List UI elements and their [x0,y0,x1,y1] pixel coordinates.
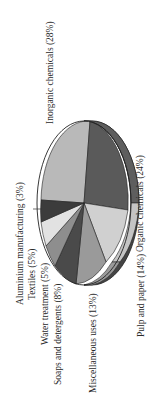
label-miscellaneous-uses: Miscellaneous uses (13%) [88,293,99,393]
label-aluminium-manufacturing: Aluminium manufacturing (3%) [15,182,26,305]
label-soaps-and-detergents: Soaps and detergents (8%) [53,284,64,385]
label-pulp-and-paper: Pulp and paper (14%) [136,254,147,337]
label-water-treatment: Water treatment (5%) [40,263,51,345]
label-organic-chemicals: Organic chemicals (24%) [135,155,146,252]
slice-organic-chemicals [84,121,128,210]
label-inorganic-chemicals: Inorganic chemicals (28%) [45,21,56,124]
label-textiles: Textiles (5%) [27,249,38,300]
slice-inorganic-chemicals [41,121,90,203]
pie-chart: Inorganic chemicals (28%) Organic chemic… [0,0,162,405]
